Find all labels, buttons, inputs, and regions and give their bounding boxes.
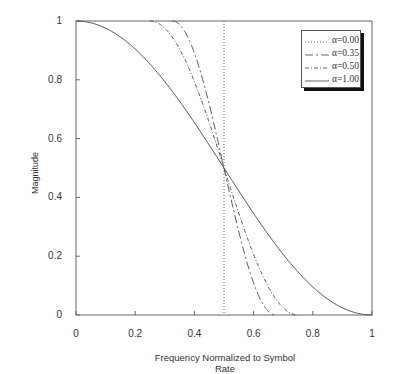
y-tick-label: 0.8 <box>40 74 62 85</box>
x-tick-label: 1 <box>357 328 387 339</box>
x-tick-label: 0.2 <box>120 328 150 339</box>
legend-label: α=1.00 <box>332 74 359 84</box>
y-tick-label: 0.6 <box>40 133 62 144</box>
y-tick-label: 0.4 <box>40 191 62 202</box>
legend-label: α=0.00 <box>332 35 359 45</box>
y-tick-label: 0.2 <box>40 250 62 261</box>
x-tick-label: 0.8 <box>298 328 328 339</box>
y-tick-label: 0 <box>40 309 62 320</box>
legend-item: α=0.50 <box>304 62 360 74</box>
legend-item: α=1.00 <box>304 75 360 87</box>
legend-item: α=0.00 <box>304 36 360 48</box>
legend-label: α=0.35 <box>332 48 359 58</box>
x-tick-label: 0.4 <box>179 328 209 339</box>
x-axis-label: Frequency Normalized to Symbol Rate <box>150 352 300 374</box>
x-tick-label: 0 <box>61 328 91 339</box>
x-tick-label: 0.6 <box>239 328 269 339</box>
y-axis-label: Magnitude <box>30 143 40 203</box>
legend: α=0.00 α=0.35 α=0.50 α=1.00 <box>301 30 361 88</box>
legend-item: α=0.35 <box>304 49 360 61</box>
y-tick-label: 1 <box>40 15 62 26</box>
legend-label: α=0.50 <box>332 61 359 71</box>
